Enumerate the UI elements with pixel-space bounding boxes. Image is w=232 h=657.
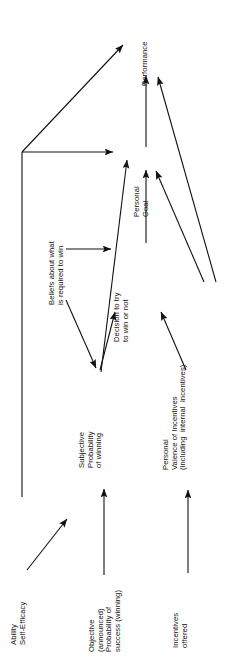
edge-valence-to-goal xyxy=(156,171,204,282)
node-incentives-offered: Incentives offered xyxy=(172,613,189,648)
node-performance: Performance xyxy=(141,41,150,86)
edge-ability-spine xyxy=(22,45,123,497)
diagram-canvas: Ability Self-Efficacy Objective (announc… xyxy=(0,0,232,657)
edge-ability-to-performance xyxy=(22,45,123,152)
node-objective-probability: Objective (announced) Probability of suc… xyxy=(88,590,122,652)
node-personal-goal: Personal Goal xyxy=(133,186,150,217)
edge-ability-to-beliefs xyxy=(27,519,67,570)
edge-valence-to-decision xyxy=(161,312,186,370)
node-ability: Ability Self-Efficacy xyxy=(10,602,27,645)
node-personal-valence: Personal Valence of Incentives (includin… xyxy=(162,365,188,470)
edge-valence-to-performance xyxy=(158,77,216,282)
node-decision-to-try: Decision to try to win or not xyxy=(113,292,130,342)
node-subjective-probability: Subjective Probability of winning xyxy=(78,431,104,468)
node-beliefs: Beliefs about what is required to win xyxy=(48,241,65,305)
edge-beliefs-to-subjective xyxy=(66,300,96,368)
